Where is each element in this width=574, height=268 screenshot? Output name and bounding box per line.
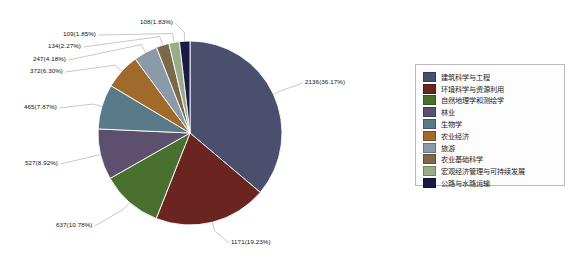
pie-chart-figure: 2136(36.17%)1171(19.23%)637(10.78%)527(8…: [0, 0, 574, 268]
pie-slice-label: 465(7.87%): [24, 104, 57, 110]
pie-slice-label: 372(6.30%): [30, 68, 63, 74]
legend-color-swatch: [423, 95, 436, 105]
pie-slice-label: 637(10.78%): [56, 222, 93, 228]
legend-item: 旅游: [423, 142, 559, 154]
pie-slice-label: 108(1.83%): [140, 19, 173, 25]
legend-color-swatch: [423, 166, 436, 176]
pie-svg: [95, 38, 285, 228]
pie-slice-label: 109(1.85%): [63, 31, 96, 37]
legend-item: 宏观经济管理与可持续发展: [423, 165, 559, 177]
pie-slice-label: 1171(19.23%): [231, 239, 271, 245]
legend-color-swatch: [423, 154, 436, 164]
legend-color-swatch: [423, 84, 436, 94]
legend-item: 公路与水路运输: [423, 177, 559, 189]
pie-slice-label: 527(8.92%): [25, 160, 58, 166]
legend-item-label: 建筑科学与工程: [441, 72, 490, 82]
legend-item-label: 生物学: [441, 119, 462, 129]
legend-color-swatch: [423, 143, 436, 153]
legend-item-label: 环境科学与资源利用: [441, 84, 504, 94]
pie-chart: [95, 38, 285, 228]
legend-item-label: 宏观经济管理与可持续发展: [441, 166, 525, 176]
legend-color-swatch: [423, 119, 436, 129]
legend-color-swatch: [423, 72, 436, 82]
legend-item: 自然地理学和测绘学: [423, 95, 559, 107]
legend-item: 农业基础科学: [423, 154, 559, 166]
legend-item: 农业经济: [423, 130, 559, 142]
pie-slice-label: 247(4.18%): [33, 56, 66, 62]
legend-item-label: 农业基础科学: [441, 154, 483, 164]
legend-item-label: 公路与水路运输: [441, 178, 490, 188]
legend-item-label: 自然地理学和测绘学: [441, 95, 504, 105]
legend-item-label: 林业: [441, 107, 455, 117]
legend-color-swatch: [423, 107, 436, 117]
legend-item-label: 农业经济: [441, 131, 469, 141]
legend-item: 环境科学与资源利用: [423, 83, 559, 95]
legend-color-swatch: [423, 131, 436, 141]
legend-item: 生物学: [423, 118, 559, 130]
pie-slice-label: 2136(36.17%): [305, 79, 345, 85]
chart-legend: 建筑科学与工程环境科学与资源利用自然地理学和测绘学林业生物学农业经济旅游农业基础…: [415, 64, 565, 186]
legend-item: 林业: [423, 106, 559, 118]
legend-color-swatch: [423, 178, 436, 188]
legend-item-label: 旅游: [441, 143, 455, 153]
legend-item: 建筑科学与工程: [423, 71, 559, 83]
pie-slice-label: 134(2.27%): [48, 43, 81, 49]
